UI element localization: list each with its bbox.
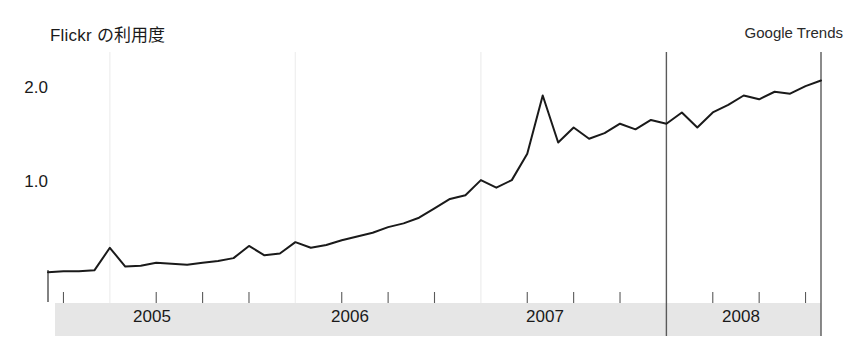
plot-area (0, 0, 865, 347)
x-tick-label-2005: 2005 (107, 307, 197, 327)
axis-ticks (48, 52, 821, 336)
y-tick-label-2-0: 2.0 (4, 78, 48, 98)
trends-chart-screenshot: Flickr の利用度 Google Trends 2.01.0 2005200… (0, 0, 865, 347)
x-tick-label-2007: 2007 (500, 307, 590, 327)
series-line-flickr (48, 80, 821, 272)
x-tick-label-2006: 2006 (305, 307, 395, 327)
x-tick-label-2008: 2008 (696, 307, 786, 327)
y-tick-label-1-0: 1.0 (4, 172, 48, 192)
chart-svg (0, 0, 865, 347)
